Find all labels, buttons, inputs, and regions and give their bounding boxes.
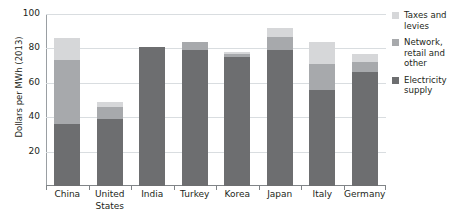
bar-segment-network-retail-and-other xyxy=(352,62,378,72)
bar-segment-network-retail-and-other xyxy=(309,64,335,90)
bar-segment-taxes-and-levies xyxy=(352,54,378,63)
bar-segment-electricity-supply xyxy=(139,47,165,186)
bar-japan[interactable] xyxy=(267,28,293,186)
legend-item-electricity-supply[interactable]: Electricity supply xyxy=(392,75,457,96)
legend-item-network-retail-and-other[interactable]: Network, retail and other xyxy=(392,37,457,69)
x-tick-label-united-states: United States xyxy=(89,189,132,212)
bar-segment-electricity-supply xyxy=(54,124,80,186)
legend-label: Taxes and levies xyxy=(404,10,457,31)
bar-segment-electricity-supply xyxy=(97,119,123,186)
legend-label: Network, retail and other xyxy=(404,37,457,69)
bar-italy[interactable] xyxy=(309,42,335,186)
x-tick-label-italy: Italy xyxy=(301,189,344,201)
stacked-bar-chart: Dollars per MWh (2013) 10080604020 China… xyxy=(0,0,457,216)
bar-segment-electricity-supply xyxy=(224,57,250,186)
y-tick-label-40: 40 xyxy=(0,112,40,121)
bar-india[interactable] xyxy=(139,47,165,186)
x-tick-label-turkey: Turkey xyxy=(174,189,217,201)
legend-label: Electricity supply xyxy=(404,75,457,96)
legend-swatch-icon xyxy=(392,39,399,46)
bar-segment-taxes-and-levies xyxy=(267,28,293,37)
bar-germany[interactable] xyxy=(352,54,378,186)
y-tick-label-100: 100 xyxy=(0,9,40,18)
bar-segment-network-retail-and-other xyxy=(97,107,123,119)
bar-segment-network-retail-and-other xyxy=(267,37,293,50)
legend-swatch-icon xyxy=(392,12,399,19)
y-tick-label-60: 60 xyxy=(0,78,40,87)
bar-segment-electricity-supply xyxy=(182,50,208,186)
chart-legend: Taxes and leviesNetwork, retail and othe… xyxy=(392,10,457,102)
bar-segment-network-retail-and-other xyxy=(182,42,208,51)
bar-united-states[interactable] xyxy=(97,102,123,186)
y-tick-label-20: 20 xyxy=(0,147,40,156)
bar-turkey[interactable] xyxy=(182,42,208,186)
x-tick-label-japan: Japan xyxy=(259,189,302,201)
x-tick-label-korea: Korea xyxy=(216,189,259,201)
x-tick-label-germany: Germany xyxy=(344,189,387,201)
bar-china[interactable] xyxy=(54,38,80,186)
x-tick-label-india: India xyxy=(131,189,174,201)
bar-segment-taxes-and-levies xyxy=(309,42,335,64)
plot-area: 10080604020 xyxy=(46,14,386,186)
y-tick-label-80: 80 xyxy=(0,43,40,52)
bar-segment-electricity-supply xyxy=(267,50,293,186)
x-tick-label-china: China xyxy=(46,189,89,201)
bar-segment-taxes-and-levies xyxy=(54,38,80,60)
legend-item-taxes-and-levies[interactable]: Taxes and levies xyxy=(392,10,457,31)
legend-swatch-icon xyxy=(392,77,399,84)
bar-segment-electricity-supply xyxy=(352,72,378,186)
y-axis-title: Dollars per MWh (2013) xyxy=(14,12,24,162)
bar-segment-electricity-supply xyxy=(309,90,335,186)
x-axis-labels: ChinaUnited StatesIndiaTurkeyKoreaJapanI… xyxy=(46,189,386,216)
bar-korea[interactable] xyxy=(224,52,250,186)
bar-segment-network-retail-and-other xyxy=(54,60,80,124)
bar-series-container xyxy=(46,14,386,186)
